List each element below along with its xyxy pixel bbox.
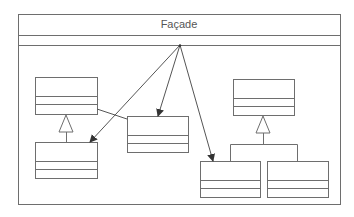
class-left-parent: [36, 78, 98, 115]
class-right-child-b: [268, 162, 329, 198]
class-right-child-a: [201, 162, 261, 198]
class-middle: [128, 117, 189, 153]
facade-title: Façade: [18, 14, 340, 35]
class-right-parent: [234, 80, 295, 116]
class-left-child: [36, 143, 98, 179]
